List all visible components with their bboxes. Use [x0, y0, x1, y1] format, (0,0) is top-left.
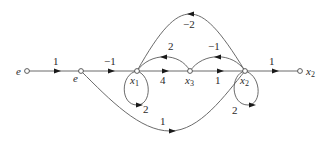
- node-label-x3: x3: [184, 74, 194, 88]
- self-loop-x2: [234, 71, 258, 105]
- arrow-right-icon: [162, 69, 169, 74]
- arrow-right-icon: [54, 69, 61, 74]
- signal-flow-graph: e e x1 x3 x2 x2 1 −1 4 1 1 2 −1 −2 2 2 1: [0, 0, 324, 142]
- node-label-x2-output: x2: [305, 65, 315, 79]
- gain-loop-x1: 2: [143, 103, 149, 115]
- node-e-input: [25, 69, 30, 74]
- arrow-left-icon: [187, 12, 194, 17]
- arrow-right-icon: [272, 69, 279, 74]
- node-x3: [188, 69, 193, 74]
- gain-x2-x3: −1: [208, 40, 220, 52]
- branch-x3-to-x1: [137, 57, 190, 71]
- node-label-e: e: [73, 72, 78, 84]
- node-label-x2: x2: [239, 74, 249, 88]
- gain-ein-e: 1: [53, 55, 59, 67]
- node-x2-output: [298, 69, 303, 74]
- node-label-x1: x1: [129, 74, 139, 88]
- gain-x1-x3: 4: [160, 74, 166, 86]
- gain-x3-x2: 1: [215, 74, 221, 86]
- gain-x2-x1: −2: [183, 18, 195, 30]
- node-label-e-input: e: [16, 65, 21, 77]
- node-e: [79, 69, 84, 74]
- arrow-right-icon: [249, 103, 256, 108]
- gain-x3-x1: 2: [168, 40, 174, 52]
- self-loop-x1: [124, 71, 148, 105]
- arrow-left-icon: [160, 55, 167, 60]
- gain-e-x2: 1: [160, 115, 166, 127]
- arrow-right-icon: [108, 69, 115, 74]
- node-x2: [243, 69, 248, 74]
- gain-loop-x2: 2: [232, 104, 238, 116]
- gain-e-x1: −1: [104, 55, 116, 67]
- arrow-left-icon: [214, 55, 221, 60]
- arrow-right-icon: [169, 129, 176, 134]
- gain-x2-out: 1: [269, 55, 275, 67]
- node-x1: [135, 69, 140, 74]
- arrow-right-icon: [217, 69, 224, 74]
